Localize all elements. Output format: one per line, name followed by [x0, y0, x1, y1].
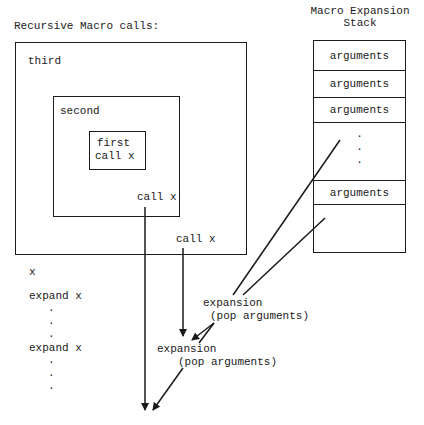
stack-to-expansion-1a — [233, 140, 340, 295]
expansion-2-to-bottom — [153, 368, 183, 410]
stack-to-expansion-1b — [243, 218, 325, 295]
connector-lines — [0, 0, 424, 425]
